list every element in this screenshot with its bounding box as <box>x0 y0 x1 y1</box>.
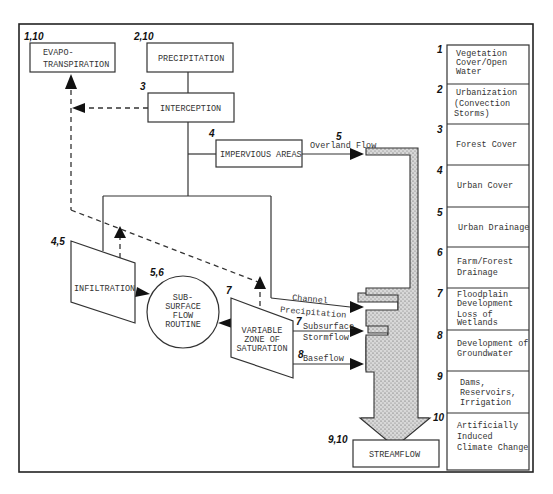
svg-text:Wetlands: Wetlands <box>457 318 498 328</box>
arrow-infiltration-to-subsurface <box>135 287 150 297</box>
svg-text:PRECIPITATION: PRECIPITATION <box>158 54 224 64</box>
svg-text:Subsurface: Subsurface <box>303 322 354 332</box>
svg-text:Groundwater: Groundwater <box>457 349 513 359</box>
svg-text:Urban Drainage: Urban Drainage <box>458 223 529 233</box>
svg-text:4,5: 4,5 <box>50 236 65 247</box>
svg-text:SATURATION: SATURATION <box>236 344 287 354</box>
svg-text:7: 7 <box>437 288 443 299</box>
svg-text:Stormflow: Stormflow <box>303 333 350 343</box>
node-impervious-areas: 4 IMPERVIOUS AREAS <box>208 128 302 167</box>
svg-text:Drainage: Drainage <box>457 268 498 278</box>
svg-text:Channel: Channel <box>292 293 328 306</box>
arrow-channel-precipitation <box>350 301 364 313</box>
svg-text:7: 7 <box>296 316 302 327</box>
node-infiltration: 4,5 INFILTRATION <box>50 236 135 323</box>
node-evapotranspiration: 1,10 EVAPO- TRANSPIRATION <box>24 31 115 72</box>
hydrologic-diagram: 1,10 EVAPO- TRANSPIRATION 2,10 PRECIPITA… <box>0 0 553 494</box>
arrow-variable-to-subsurface <box>218 318 232 328</box>
svg-text:ROUTINE: ROUTINE <box>165 320 201 330</box>
svg-text:4: 4 <box>208 128 215 139</box>
svg-text:Development: Development <box>457 299 513 309</box>
svg-text:Irrigation: Irrigation <box>460 398 511 408</box>
svg-text:1: 1 <box>437 44 443 55</box>
svg-text:Baseflow: Baseflow <box>303 354 345 364</box>
svg-text:EVAPO-: EVAPO- <box>43 48 74 58</box>
svg-text:8: 8 <box>437 330 443 341</box>
svg-text:9: 9 <box>437 371 443 382</box>
svg-text:Reservoirs,: Reservoirs, <box>460 388 516 398</box>
svg-text:5: 5 <box>437 207 443 218</box>
svg-text:3: 3 <box>437 124 443 135</box>
svg-text:10: 10 <box>433 412 445 423</box>
svg-text:TRANSPIRATION: TRANSPIRATION <box>43 60 109 70</box>
svg-text:Water: Water <box>456 67 482 77</box>
svg-text:Forest Cover: Forest Cover <box>456 140 517 150</box>
svg-text:INTERCEPTION: INTERCEPTION <box>160 104 221 114</box>
node-precipitation: 2,10 PRECIPITATION <box>133 31 233 72</box>
node-number: 1,10 <box>24 31 44 42</box>
flow-channel-precipitation: Channel Precipitation <box>280 293 347 321</box>
svg-text:Artificially: Artificially <box>457 421 518 431</box>
svg-text:6: 6 <box>437 247 443 258</box>
svg-text:INFILTRATION: INFILTRATION <box>74 284 135 294</box>
svg-text:4: 4 <box>436 165 443 176</box>
node-subsurface-flow: 5,6 SUB- SURFACE FLOW ROUTINE <box>147 267 219 348</box>
svg-text:Climate Change: Climate Change <box>457 443 528 453</box>
flow-overland: 5 Overland Flow <box>310 131 377 151</box>
node-interception: 3 INTERCEPTION <box>140 81 234 122</box>
arrow-up-variable-zone <box>254 276 266 289</box>
svg-text:(Convection: (Convection <box>454 99 510 109</box>
svg-text:2,10: 2,10 <box>133 31 154 42</box>
svg-text:Dams,: Dams, <box>460 378 486 388</box>
svg-text:Urban Cover: Urban Cover <box>457 181 513 191</box>
svg-text:Farm/Forest: Farm/Forest <box>457 257 513 267</box>
node-streamflow: 9,10 STREAMFLOW <box>328 434 439 467</box>
arrow-baseflow <box>350 358 364 370</box>
svg-text:Storms): Storms) <box>454 109 490 119</box>
svg-text:Precipitation: Precipitation <box>280 305 347 321</box>
arrow-up-evapotranspiration <box>65 74 77 89</box>
flow-baseflow: 8 Baseflow <box>298 349 345 364</box>
svg-text:STREAMFLOW: STREAMFLOW <box>369 450 421 460</box>
svg-text:IMPERVIOUS AREAS: IMPERVIOUS AREAS <box>220 150 302 160</box>
legend-panel: 1 Vegetation Cover/Open Water 2 Urbaniza… <box>433 44 529 470</box>
svg-text:Urbanization: Urbanization <box>456 88 517 98</box>
svg-text:5,6: 5,6 <box>150 267 164 278</box>
svg-text:Induced: Induced <box>457 432 493 442</box>
svg-text:Development of: Development of <box>457 339 528 349</box>
arrow-left-evapotranspiration <box>72 103 85 113</box>
svg-text:Overland Flow: Overland Flow <box>310 141 377 151</box>
svg-text:3: 3 <box>140 81 146 92</box>
svg-text:9,10: 9,10 <box>328 434 348 445</box>
svg-text:7: 7 <box>226 285 232 296</box>
svg-text:2: 2 <box>436 84 443 95</box>
